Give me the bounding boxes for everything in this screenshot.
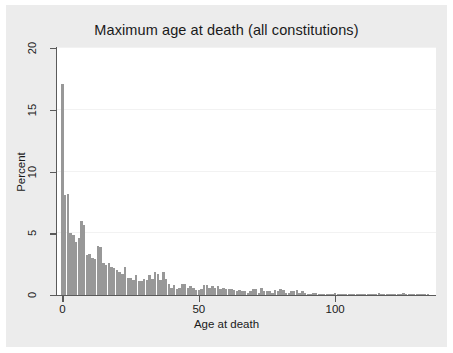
chart-figure: Maximum age at death (all constitutions)… xyxy=(0,0,453,353)
y-axis-line xyxy=(56,47,57,296)
y-axis-tick xyxy=(50,172,56,173)
y-axis-tick xyxy=(50,295,56,296)
x-axis-tick-label: 100 xyxy=(315,303,355,315)
y-axis-tick xyxy=(50,233,56,234)
y-axis-tick-label: 15 xyxy=(26,95,38,125)
plot-area xyxy=(57,48,436,295)
x-axis-tick xyxy=(199,296,200,302)
x-axis-line xyxy=(56,295,436,296)
x-axis-tick xyxy=(335,296,336,302)
x-axis-tick xyxy=(62,296,63,302)
y-axis-tick-label: 0 xyxy=(26,280,38,310)
chart-title: Maximum age at death (all constitutions) xyxy=(0,22,453,38)
y-axis-tick-label: 20 xyxy=(26,33,38,63)
y-axis-tick xyxy=(50,110,56,111)
y-axis-tick-label: 10 xyxy=(26,157,38,187)
x-axis-title: Age at death xyxy=(0,318,453,330)
y-axis-title: Percent xyxy=(15,152,27,192)
histogram-bars xyxy=(57,48,436,295)
y-axis-tick xyxy=(50,48,56,49)
y-axis-tick-label: 5 xyxy=(26,218,38,248)
x-axis-tick-label: 0 xyxy=(42,303,82,315)
x-axis-tick-label: 50 xyxy=(179,303,219,315)
